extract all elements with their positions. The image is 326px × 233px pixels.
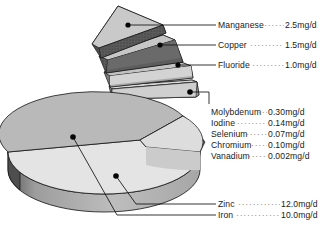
leader-dots-vanadium: ···················: [248, 151, 267, 161]
value-chromium: 0.10mg/d: [268, 140, 305, 150]
label-chromium: Chromium: [211, 140, 251, 150]
leader-dots-selenium: ···················: [246, 129, 267, 139]
value-selenium: 0.07mg/d: [268, 129, 305, 139]
value-zinc: 12.0mg/d: [281, 199, 318, 209]
value-fluoride: 1.0mg/d: [285, 60, 317, 70]
label-selenium: Selenium: [211, 129, 248, 139]
value-iodine: 0.14mg/d: [268, 118, 305, 128]
label-iodine: Iodine: [211, 118, 235, 128]
leader-dots-fluoride: ···············: [252, 60, 284, 70]
dot-fluoride: [175, 62, 180, 67]
label-manganese: Manganese: [218, 20, 264, 30]
label-iron: Iron: [218, 210, 233, 220]
leader-dots-manganese: ······: [264, 20, 284, 30]
pie-body: [0, 92, 205, 212]
value-iron: 10.0mg/d: [281, 210, 318, 220]
leader-dots-iron: ··························: [236, 210, 280, 220]
label-molybdenum: Molybdenum: [211, 107, 261, 117]
leader-dots-copper: ···············: [250, 40, 284, 50]
leader-dots-iodine: ······························: [233, 118, 267, 128]
dot-manganese: [125, 22, 130, 27]
label-zinc: Zinc: [218, 199, 235, 209]
leader-dots-chromium: ······: [251, 140, 267, 150]
value-manganese: 2.5mg/d: [285, 20, 317, 30]
dot-copper: [157, 42, 162, 47]
label-vanadium: Vanadium: [211, 151, 250, 161]
label-copper: Copper: [218, 40, 247, 50]
dot-iron: [70, 134, 76, 140]
leader-dots-zinc: ·························: [238, 199, 280, 209]
dot-molybdenum-group: [187, 89, 193, 95]
mineral-intake-pie-chart-figure: Manganese ······ 2.5mg/d Copper ········…: [0, 0, 326, 233]
value-molybdenum: 0.30mg/d: [268, 107, 305, 117]
label-fluoride: Fluoride: [218, 60, 250, 70]
dot-zinc: [113, 173, 119, 179]
value-copper: 1.5mg/d: [285, 40, 317, 50]
value-vanadium: 0.002mg/d: [268, 151, 310, 161]
leader-dots-molybdenum: ······: [258, 107, 267, 117]
